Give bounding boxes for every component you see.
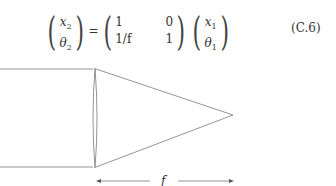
converging-ray-top [96, 69, 233, 115]
lens-diagram [0, 0, 336, 186]
focal-length-label: f [161, 174, 165, 186]
lens-shape [93, 68, 97, 168]
converging-ray-bottom [96, 115, 233, 167]
arrowhead-right-icon [229, 179, 234, 183]
arrowhead-left-icon [96, 179, 101, 183]
